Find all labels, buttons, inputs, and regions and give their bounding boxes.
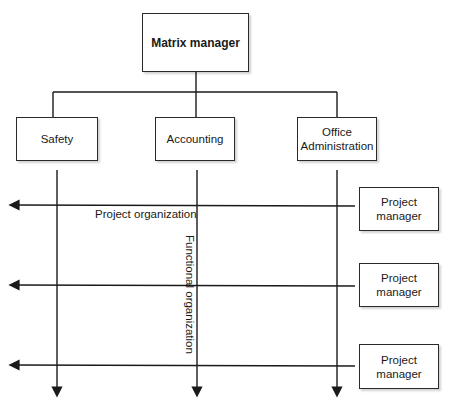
project-manager-box-1: Project manager [359,187,439,231]
department-box-accounting: Accounting [155,117,235,161]
functional-organization-label: Functional organization [184,235,196,354]
department-label: Accounting [167,132,224,146]
project-organization-label: Project organization [95,208,197,220]
project-manager-box-2: Project manager [359,263,439,307]
matrix-manager-label: Matrix manager [151,36,240,50]
project-manager-box-3: Project manager [359,344,439,389]
department-label: Safety [41,132,74,146]
project-manager-label: Project manager [360,195,438,223]
department-box-safety: Safety [16,117,98,161]
department-label: Office Administration [301,125,374,153]
project-manager-label: Project manager [360,353,438,381]
matrix-manager-box: Matrix manager [142,13,249,72]
project-manager-label: Project manager [360,271,438,299]
department-box-office-administration: Office Administration [297,117,377,161]
